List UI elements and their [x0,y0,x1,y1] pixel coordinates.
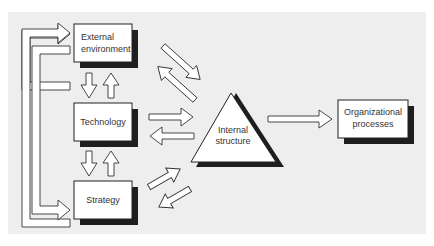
box [74,24,132,62]
diagram-canvas: External environment Technology Strategy… [0,0,434,246]
node-organizational-processes: Organizational processes [338,100,414,144]
node-external-environment: External environment [74,24,138,68]
node-label: Strategy [86,195,120,205]
node-label-line2: processes [352,119,394,129]
node-label-line1: Organizational [344,107,402,117]
node-label: Technology [80,117,126,127]
node-label-line1: Internal [218,125,248,135]
node-label-line1: External [81,32,114,42]
node-strategy: Strategy [74,181,138,225]
node-label-line2: environment [81,44,131,54]
node-label-line2: structure [215,136,250,146]
node-technology: Technology [74,103,138,147]
